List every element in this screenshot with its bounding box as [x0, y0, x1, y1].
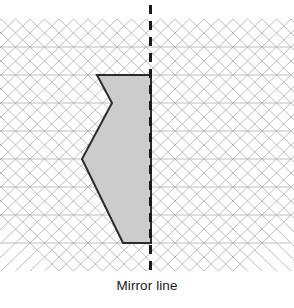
- mirror-line-caption: Mirror line: [0, 278, 294, 293]
- diagram-canvas: [0, 0, 294, 308]
- mirror-line-figure: Mirror line: [0, 0, 294, 308]
